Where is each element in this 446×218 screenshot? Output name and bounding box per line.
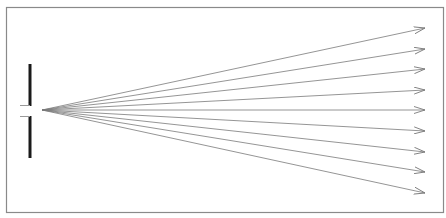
ray-arrow [42, 110, 425, 193]
ray-arrow [42, 110, 425, 172]
ray-bundle [42, 28, 425, 193]
ray-arrow [42, 90, 425, 110]
ray-arrow [42, 28, 425, 110]
diffraction-diagram [0, 0, 446, 218]
ray-arrow [42, 110, 425, 152]
ray-arrow [42, 49, 425, 110]
ray-arrow [42, 69, 425, 110]
ray-arrow [42, 110, 425, 131]
